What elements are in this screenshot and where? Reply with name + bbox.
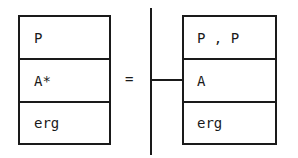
left-divider-1 [20,58,109,60]
right-row-2: A [184,74,275,88]
right-row-1: P , P [184,31,275,45]
left-struct-box: P A* erg [18,15,111,145]
right-row-3: erg [184,116,275,130]
equals-operator: = [125,72,133,86]
left-divider-2 [20,101,109,103]
connector-line [151,79,182,81]
left-row-3: erg [20,116,109,130]
right-struct-box: P , P A erg [182,15,277,145]
right-divider-2 [184,101,275,103]
right-divider-1 [184,58,275,60]
left-row-1: P [20,31,109,45]
left-row-2: A* [20,74,109,88]
vertical-bar [150,8,152,155]
